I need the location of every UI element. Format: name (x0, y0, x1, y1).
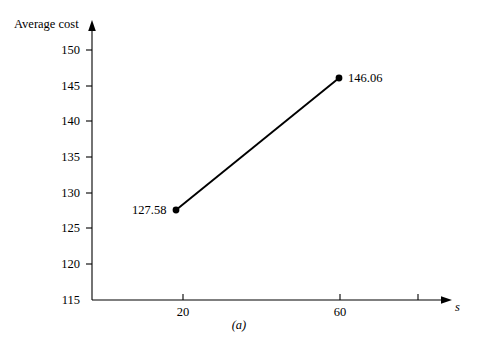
x-axis (92, 296, 452, 304)
data-point-low (173, 207, 180, 214)
y-tick-label-140: 140 (46, 114, 80, 129)
y-axis-title: Average cost (14, 17, 79, 32)
data-line-series (176, 78, 339, 210)
y-tick-label-125: 125 (46, 221, 80, 236)
y-axis-ticks (86, 50, 92, 264)
y-tick-label-115: 115 (46, 293, 80, 308)
x-axis-title: s (455, 300, 460, 315)
y-tick-label-120: 120 (46, 257, 80, 272)
data-point-label-high: 146.06 (348, 71, 382, 86)
figure-caption: (a) (0, 318, 478, 333)
y-tick-label-130: 130 (46, 186, 80, 201)
y-tick-label-150: 150 (46, 43, 80, 58)
data-point-label-low: 127.58 (132, 203, 166, 218)
y-axis (88, 20, 96, 300)
y-tick-label-135: 135 (46, 150, 80, 165)
figure-container: Average cost s 150 145 140 135 130 125 1… (0, 0, 478, 347)
x-axis-ticks (183, 294, 418, 300)
data-point-high (336, 75, 343, 82)
y-tick-label-145: 145 (46, 79, 80, 94)
